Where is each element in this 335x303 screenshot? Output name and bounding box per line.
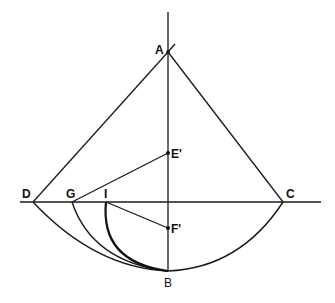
label-f: F' <box>171 222 181 236</box>
label-c: C <box>286 187 295 201</box>
line-a-d <box>33 52 168 202</box>
label-e: E' <box>171 147 182 161</box>
label-g: G <box>66 187 75 201</box>
arc-g-b <box>72 202 168 271</box>
label-i: I <box>104 187 107 201</box>
point-e <box>166 151 170 155</box>
point-f <box>166 226 170 230</box>
line-i-f <box>106 202 168 228</box>
line-g-e <box>72 153 168 202</box>
label-d: D <box>22 187 31 201</box>
geometry-diagram: A E' D G I C F' B <box>0 0 335 303</box>
point-a <box>166 50 170 54</box>
arc-c-b <box>168 202 283 271</box>
label-a: A <box>155 43 164 57</box>
line-a-c <box>168 52 283 202</box>
label-b: B <box>164 276 172 290</box>
arc-d-b <box>33 202 168 271</box>
